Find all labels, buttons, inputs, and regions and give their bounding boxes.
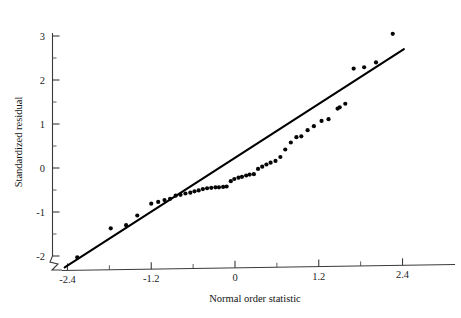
data-point: [149, 202, 153, 206]
data-point: [205, 186, 209, 190]
data-point: [273, 159, 277, 163]
qq-plot-figure: -2-10123 -2.4-1.201.22.4 Normal order st…: [0, 0, 461, 318]
data-point: [162, 198, 166, 202]
data-point: [391, 32, 395, 36]
x-axis-title: Normal order statistic: [209, 293, 301, 304]
data-point: [232, 177, 236, 181]
y-tick-label: -1: [36, 207, 45, 218]
y-tick-label: 3: [40, 31, 45, 42]
axis-break-icon: [50, 256, 62, 270]
x-tick-label-group: -2.4-1.201.22.4: [59, 269, 410, 285]
data-point: [260, 165, 264, 169]
data-point: [217, 185, 221, 189]
data-point: [305, 128, 309, 132]
x-tick-label: 2.4: [396, 269, 410, 280]
data-point-group: [75, 32, 395, 260]
data-point: [209, 186, 213, 190]
data-point: [294, 135, 298, 139]
y-minor-tick-group: [53, 58, 57, 234]
data-point: [278, 155, 282, 159]
data-point: [343, 102, 347, 106]
data-point: [352, 66, 356, 70]
data-point: [75, 255, 79, 259]
data-point: [135, 213, 139, 217]
data-point: [156, 200, 160, 204]
data-point: [168, 197, 172, 201]
data-point: [178, 193, 182, 197]
data-point: [201, 187, 205, 191]
reference-line: [65, 49, 404, 267]
data-point: [229, 179, 233, 183]
data-point: [248, 173, 252, 177]
y-axis-title: Standardized residual: [13, 97, 24, 188]
data-point: [225, 184, 229, 188]
data-point: [312, 124, 316, 128]
data-point: [188, 191, 192, 195]
data-point: [374, 60, 378, 64]
chart-canvas: -2-10123 -2.4-1.201.22.4 Normal order st…: [0, 0, 461, 318]
data-point: [319, 119, 323, 123]
data-point: [240, 175, 244, 179]
data-point: [268, 161, 272, 165]
y-tick-label: 1: [40, 119, 45, 130]
data-point: [183, 191, 187, 195]
x-tick-group: [67, 258, 402, 270]
x-tick-label: 1.2: [312, 271, 325, 282]
data-point: [283, 147, 287, 151]
data-point: [109, 226, 113, 230]
data-point: [299, 134, 303, 138]
data-point: [326, 117, 330, 121]
data-point: [174, 194, 178, 198]
data-point: [192, 189, 196, 193]
data-point: [362, 65, 366, 69]
data-point: [338, 105, 342, 109]
y-tick-label: 2: [40, 75, 45, 86]
data-point: [289, 140, 293, 144]
y-tick-label: 0: [40, 163, 45, 174]
data-point: [252, 172, 256, 176]
x-tick-label: -1.2: [143, 273, 160, 284]
y-tick-label: -2: [36, 251, 45, 262]
x-tick-label: -2.4: [59, 274, 76, 285]
data-point: [236, 176, 240, 180]
y-tick-label-group: -2-10123: [36, 31, 45, 262]
data-point: [124, 223, 128, 227]
data-point: [256, 167, 260, 171]
data-point: [244, 173, 248, 177]
data-point: [197, 188, 201, 192]
x-tick-label: 0: [232, 272, 237, 283]
data-point: [264, 162, 268, 166]
